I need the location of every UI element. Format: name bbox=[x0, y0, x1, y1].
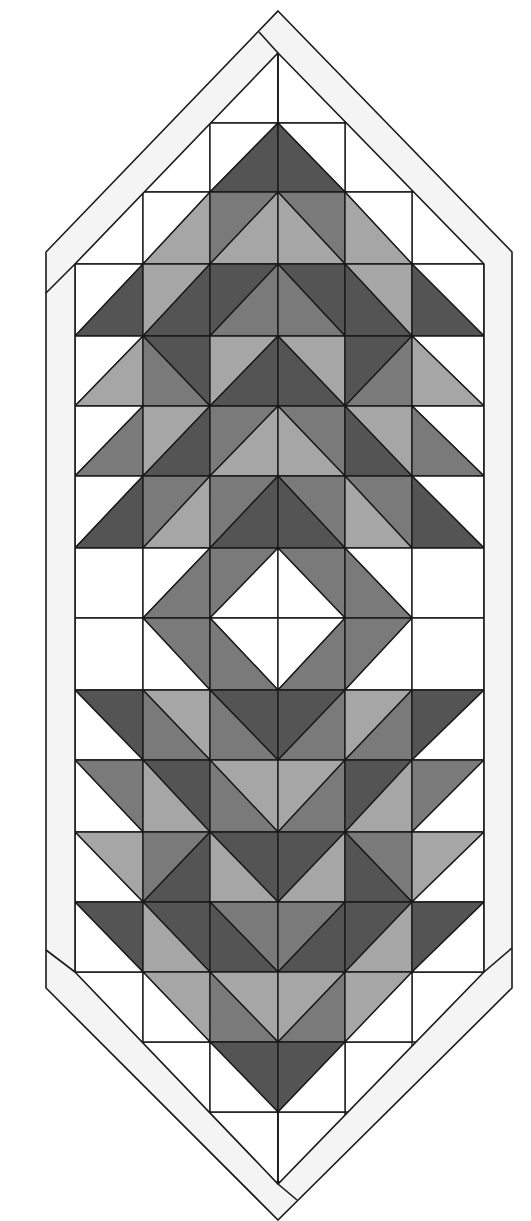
quilt-runner-diagram bbox=[0, 0, 531, 1221]
patchwork-cells bbox=[75, 53, 484, 1182]
plain-square bbox=[75, 548, 143, 618]
plain-square bbox=[75, 618, 143, 690]
plain-square bbox=[412, 618, 484, 690]
quilt-svg bbox=[0, 0, 531, 1221]
plain-square bbox=[412, 548, 484, 618]
